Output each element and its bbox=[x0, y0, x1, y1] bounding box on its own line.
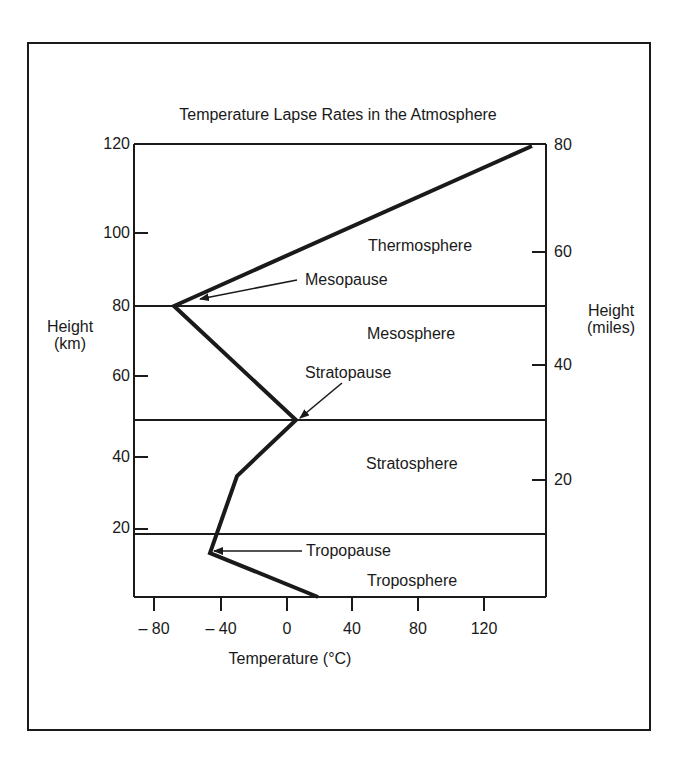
annotation-arrows bbox=[200, 280, 342, 551]
y2-tick-20: 20 bbox=[554, 471, 572, 489]
y-axis-label-right-line2: (miles) bbox=[576, 319, 646, 337]
right-ticks bbox=[532, 252, 546, 480]
boundary-label-tropopause: Tropopause bbox=[306, 542, 391, 560]
y-tick-20: 20 bbox=[80, 519, 130, 537]
y-tick-80: 80 bbox=[80, 297, 130, 315]
y2-tick-40: 40 bbox=[554, 356, 572, 374]
x-tick-120: 120 bbox=[454, 620, 514, 638]
left-ticks bbox=[134, 233, 148, 529]
y-axis-label-right-line1: Height bbox=[576, 302, 646, 320]
x-axis-label: Temperature (°C) bbox=[200, 650, 380, 668]
layer-label-thermosphere: Thermosphere bbox=[368, 237, 472, 255]
bottom-ticks bbox=[154, 597, 484, 611]
y2-tick-80: 80 bbox=[554, 136, 572, 154]
x-tick-0: 0 bbox=[257, 620, 317, 638]
y-axis-label-left-line1: Height bbox=[40, 318, 100, 336]
y-tick-40: 40 bbox=[80, 448, 130, 466]
y-axis-label-left-line2: (km) bbox=[40, 335, 100, 353]
layer-label-troposphere: Troposphere bbox=[367, 572, 457, 590]
layer-label-mesosphere: Mesosphere bbox=[367, 325, 455, 343]
y-tick-60: 60 bbox=[80, 367, 130, 385]
y-tick-120: 120 bbox=[80, 135, 130, 153]
layer-boundaries bbox=[134, 306, 546, 534]
stratopause-arrow bbox=[300, 383, 342, 418]
x-tick-80: 80 bbox=[388, 620, 448, 638]
x-tick-neg80: – 80 bbox=[124, 620, 184, 638]
layer-label-stratosphere: Stratosphere bbox=[366, 455, 458, 473]
y-tick-100: 100 bbox=[80, 224, 130, 242]
boundary-label-stratopause: Stratopause bbox=[305, 364, 391, 382]
y2-tick-60: 60 bbox=[554, 243, 572, 261]
x-tick-neg40: – 40 bbox=[191, 620, 251, 638]
x-tick-40: 40 bbox=[322, 620, 382, 638]
boundary-label-mesopause: Mesopause bbox=[305, 271, 388, 289]
